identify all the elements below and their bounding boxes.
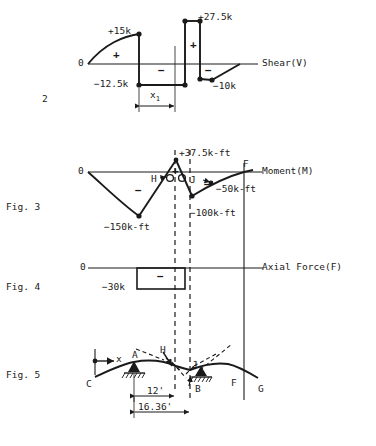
moment-axis-label: Moment(M) (262, 166, 313, 176)
moment-zero-label: 0 (78, 166, 84, 176)
moment-right-value-label: −50k-ft (216, 184, 256, 194)
deflected-point-h: H (160, 345, 166, 355)
deflected-point-a: A (132, 350, 138, 360)
deflected-point-c: C (86, 379, 92, 389)
page-number: 2 (42, 94, 48, 104)
shear-minus-mid: − (158, 66, 165, 76)
dim12-label: 12' (147, 386, 164, 396)
shear-minus-right: − (205, 66, 212, 76)
moment-minus-right: − (204, 180, 211, 190)
axial-value-label: −30k (102, 282, 125, 292)
shear-trough-left-label: −12.5k (94, 79, 128, 89)
fig4-label: Fig. 4 (6, 282, 40, 292)
moment-point-j-label: J (190, 175, 196, 185)
support-b-hatching (190, 377, 212, 382)
deflected-point-b: B (195, 384, 201, 394)
shear-point-tail-a (197, 76, 202, 81)
moment-point-h-label: H (151, 174, 157, 184)
moment-peak-label: +37.5k-ft (179, 148, 230, 158)
support-a-hatching (122, 373, 145, 378)
diagram-canvas (0, 0, 376, 446)
moment-point-f-label: F (243, 159, 249, 169)
axial-zero-label: 0 (80, 262, 86, 272)
axial-minus: − (157, 272, 164, 282)
moment-trough-mid-label: −100k-ft (190, 208, 236, 218)
shear-point-trough-left (136, 82, 141, 87)
figure-root: 2 0 +15k +27.5k −12.5k −10k + + − − Shea… (0, 0, 376, 446)
deflected-point-j: J (192, 360, 198, 370)
fig3-label: Fig. 3 (6, 202, 40, 212)
moment-point-peak (174, 158, 179, 163)
deflected-point-g: G (258, 384, 264, 394)
shear-zero-label: 0 (78, 58, 84, 68)
shear-axis-label: Shear(V) (262, 58, 308, 68)
moment-trough-left-label: −150k-ft (104, 222, 150, 232)
moment-minus-left: − (135, 186, 142, 196)
shear-slope-tail (212, 64, 240, 80)
shear-peak-right-label: +27.5k (198, 12, 232, 22)
shear-point-peak-left (136, 31, 141, 36)
tangent-j-down (172, 362, 186, 378)
shear-plus-left: + (113, 50, 120, 60)
fig5-label: Fig. 5 (6, 370, 40, 380)
shear-peak-left-label: +15k (108, 26, 131, 36)
shear-plus-right: + (190, 40, 197, 50)
shear-point-trough-mid (182, 82, 187, 87)
shear-trough-right-label: −10k (213, 81, 236, 91)
shear-point-peak-right (182, 18, 187, 23)
moment-point-trough-left (136, 213, 141, 218)
dim1636-label: 16.36' (138, 402, 172, 412)
moment-plus: + (172, 166, 179, 176)
deflected-point-f: F (231, 378, 237, 388)
axial-axis-label: Axial Force(F) (262, 262, 342, 272)
deflected-x-label: x (116, 354, 122, 364)
moment-curve-left (88, 172, 139, 216)
moment-rise-to-peak (139, 160, 176, 216)
x1-dimension-label: x1 (150, 90, 160, 104)
